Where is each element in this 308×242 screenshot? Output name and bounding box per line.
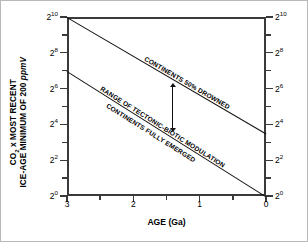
y-tick-minor (266, 34, 271, 35)
series-annotation: CONTINENTS 50% DROWNED (143, 55, 231, 110)
y-axis-label-line2: ICE-AGE MINIMUM OF 200 ppmV (19, 57, 28, 188)
y-tick-label: 210 (46, 13, 58, 22)
y-tick-major (266, 160, 273, 161)
y-tick-label: 24 (275, 120, 283, 129)
arrow-head-down-icon (170, 128, 176, 132)
x-tick-minor (99, 195, 100, 200)
y-tick-major (266, 195, 273, 196)
y-tick-label: 26 (275, 84, 283, 93)
y-tick-label: 20 (275, 192, 283, 201)
y-tick-major (266, 16, 273, 17)
series-line (66, 17, 266, 134)
x-tick-label: 1 (197, 200, 202, 209)
x-tick-label: 3 (65, 200, 70, 209)
x-axis-label: AGE (Ga) (67, 217, 266, 227)
y-tick-minor (266, 70, 271, 71)
y-tick-label: 24 (50, 120, 58, 129)
arrow-head-up-icon (170, 83, 176, 87)
y-tick-major (60, 88, 67, 89)
y-tick-major (266, 124, 273, 125)
y-tick-minor (266, 142, 271, 143)
y-tick-label: 28 (50, 49, 58, 58)
y-tick-label: 22 (50, 156, 58, 165)
y-axis-label-text: CO2 x MOST RECENT ICE-AGE MINIMUM OF 200… (9, 57, 30, 188)
y-tick-major (266, 52, 273, 53)
y-axis-label: CO2 x MOST RECENT ICE-AGE MINIMUM OF 200… (5, 1, 33, 242)
modulation-range-arrow (172, 84, 173, 130)
x-tick-minor (232, 195, 233, 200)
y-tick-major (266, 88, 273, 89)
y-tick-minor (266, 177, 271, 178)
y-tick-minor (266, 106, 271, 107)
y-tick-minor (62, 34, 67, 35)
y-tick-label: 20 (50, 192, 58, 201)
y-tick-label: 22 (275, 156, 283, 165)
y-tick-label: 210 (275, 13, 287, 22)
y-tick-major (60, 52, 67, 53)
y-tick-minor (62, 177, 67, 178)
axis-left (67, 17, 69, 196)
y-tick-label: 28 (275, 49, 283, 58)
y-tick-major (60, 160, 67, 161)
chart-figure: CO2 x MOST RECENT ICE-AGE MINIMUM OF 200… (0, 0, 308, 242)
x-tick-minor (166, 195, 167, 200)
y-axis-label-units: ppmV (19, 57, 28, 80)
axis-top (67, 17, 266, 19)
y-axis-label-line1: CO2 x MOST RECENT (9, 79, 18, 165)
y-tick-label: 26 (50, 84, 58, 93)
y-tick-major (60, 124, 67, 125)
series-annotation: CONTINENTS FULLY EMERGED (105, 102, 197, 163)
y-tick-minor (62, 106, 67, 107)
x-tick-label: 0 (264, 200, 269, 209)
x-tick-label: 2 (131, 200, 136, 209)
plot-area: 2102826242220 2102826242220 3210 CONTINE… (67, 17, 266, 196)
y-tick-minor (62, 142, 67, 143)
